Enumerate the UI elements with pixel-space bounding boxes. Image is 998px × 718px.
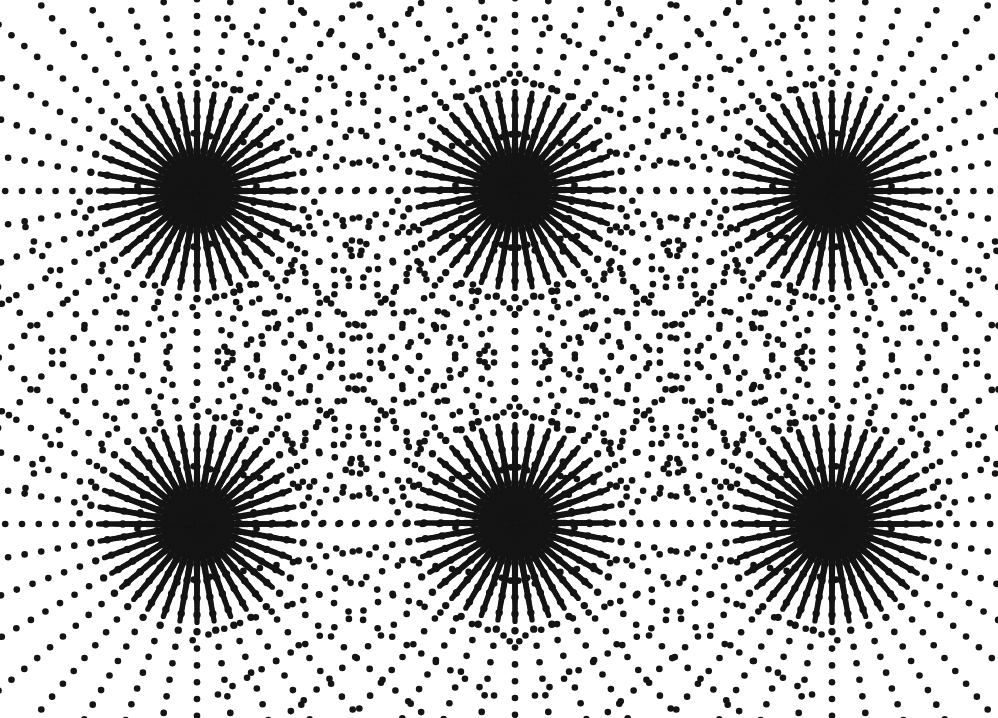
starburst-pattern: [0, 0, 998, 718]
artwork-canvas: [0, 0, 998, 718]
